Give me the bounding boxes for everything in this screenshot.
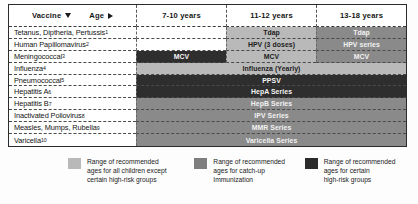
vaccine-name-row-2: Human Papillomavirus2 — [9, 39, 136, 51]
schedule-cell-span-row-10: Varicella Series — [136, 134, 406, 146]
immunization-schedule-figure: VaccineAge7-10 years11-12 years13-18 yea… — [0, 0, 418, 204]
vaccine-label: Hepatitis B — [14, 99, 49, 108]
triangle-down-icon[interactable] — [65, 13, 71, 18]
vaccine-name-row-8: Inactivated Poliovirus8 — [9, 110, 136, 122]
vaccine-label: Inactivated Poliovirus — [14, 111, 82, 120]
vaccine-name-row-5: Pneumococcal5 — [9, 75, 136, 87]
vaccine-name-row-3: Meningococcal3 — [9, 51, 136, 63]
header-age-label: Age — [89, 11, 104, 20]
schedule-cell-row-1-col-2: Tdap — [226, 27, 316, 39]
header-age-column-1: 7-10 years — [136, 5, 226, 27]
legend-item-1: Range of recommendedages for all childre… — [68, 157, 184, 201]
legend-text-1: Range of recommendedages for all childre… — [87, 157, 167, 185]
schedule-grid: VaccineAge7-10 years11-12 years13-18 yea… — [9, 5, 406, 146]
legend-line: Range of recommended — [87, 157, 167, 166]
schedule-cell-row-2-col-2: HPV (3 doses) — [226, 39, 316, 51]
legend-line: ages for certain — [324, 166, 396, 175]
schedule-cell-span-row-4: Influenza (Yearly) — [136, 63, 406, 75]
vaccine-name-row-10: Varicella10 — [9, 134, 136, 146]
legend: Range of recommendedages for all childre… — [8, 157, 407, 201]
legend-line: ages for all children except — [87, 166, 167, 175]
schedule-cell-row-3-col-2: MCV — [226, 51, 316, 63]
legend-text-3: Range of recommendedages for certainhigh… — [324, 157, 396, 185]
legend-line: Range of recommended — [213, 157, 285, 166]
header-vaccine-age: VaccineAge — [9, 5, 136, 27]
vaccine-label: Meningococcal — [14, 52, 62, 61]
legend-swatch-mid — [194, 158, 207, 169]
legend-swatch-dark — [305, 158, 318, 169]
header-vaccine-label: Vaccine — [32, 11, 61, 20]
header-age-column-3: 13-18 years — [316, 5, 406, 27]
legend-line: certain high-risk groups — [87, 175, 167, 184]
vaccine-label: Measles, Mumps, Rubella — [14, 123, 97, 132]
header-age-column-2: 11-12 years — [226, 5, 316, 27]
immunization-schedule-table: VaccineAge7-10 years11-12 years13-18 yea… — [8, 4, 407, 147]
legend-line: ages for catch-up — [213, 166, 285, 175]
schedule-cell-row-2-col-3: HPV series — [316, 39, 406, 51]
legend-line: high-risk groups — [324, 175, 396, 184]
legend-item-3: Range of recommendedages for certainhigh… — [305, 157, 407, 201]
schedule-cell-row-1-col-3: Tdap — [316, 27, 406, 39]
legend-text-2: Range of recommendedages for catch-upImm… — [213, 157, 285, 185]
triangle-right-icon[interactable] — [108, 13, 113, 19]
schedule-cell-span-row-9: MMR Series — [136, 122, 406, 134]
vaccine-label: Human Papillomavirus — [14, 40, 86, 49]
vaccine-name-row-6: Hepatitis A6 — [9, 86, 136, 98]
schedule-cell-row-3-col-1: MCV — [136, 51, 226, 63]
legend-item-2: Range of recommendedages for catch-upImm… — [194, 157, 296, 201]
vaccine-label: Pneumococcal — [14, 76, 61, 85]
legend-line: Range of recommended — [324, 157, 396, 166]
vaccine-name-row-1: Tetanus, Diptheria, Pertussis1 — [9, 27, 136, 39]
schedule-cell-span-row-8: IPV Series — [136, 110, 406, 122]
vaccine-label: Hepatitis A — [14, 87, 48, 96]
schedule-cell-span-row-7: HepB Series — [136, 98, 406, 110]
schedule-cell-span-row-6: HepA Series — [136, 86, 406, 98]
schedule-cell-span-row-5: PPSV — [136, 75, 406, 87]
vaccine-name-row-4: Influenza4 — [9, 63, 136, 75]
schedule-cell-row-3-col-3: MCV — [316, 51, 406, 63]
vaccine-name-row-7: Hepatitis B7 — [9, 98, 136, 110]
vaccine-label: Influenza — [14, 64, 43, 73]
legend-line: Immunization — [213, 175, 285, 184]
vaccine-label: Varicella — [14, 136, 41, 145]
schedule-cell-row-2-col-1 — [136, 39, 226, 51]
schedule-cell-row-1-col-1 — [136, 27, 226, 39]
legend-swatch-light — [68, 158, 81, 169]
vaccine-label: Tetanus, Diptheria, Pertussis — [14, 28, 105, 37]
vaccine-name-row-9: Measles, Mumps, Rubella9 — [9, 122, 136, 134]
